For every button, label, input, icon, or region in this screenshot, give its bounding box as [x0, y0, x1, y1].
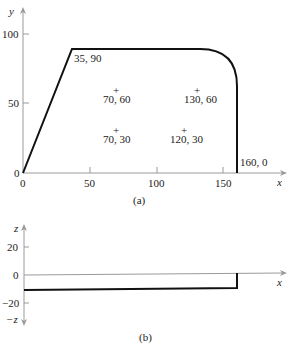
- corner-label-160-0: 160, 0: [240, 156, 268, 168]
- x-tick-label-150: 150: [215, 177, 232, 189]
- y-tick-label-100: 100: [2, 28, 19, 40]
- point-label: 120, 30: [170, 133, 204, 145]
- y-tick-label-50: 50: [8, 97, 20, 109]
- x-tick-label-0: 0: [20, 177, 26, 189]
- z-axis-label: z: [13, 222, 19, 234]
- x-tick-label-50: 50: [84, 177, 96, 189]
- plan-outline: [23, 49, 237, 173]
- x-axis-label: x: [276, 176, 282, 188]
- y-axis-label: y: [8, 5, 14, 17]
- panel-b: z −z x 20 0 −20 (b): [2, 222, 284, 344]
- point-label: 70, 60: [103, 93, 131, 105]
- caption-b: (b): [139, 331, 152, 344]
- z-tick-label-0: 0: [13, 269, 19, 281]
- point-130-60: + 130, 60: [184, 84, 218, 105]
- neg-z-axis-label: −z: [6, 313, 18, 325]
- point-120-30: + 120, 30: [170, 124, 204, 145]
- point-label: 130, 60: [184, 93, 218, 105]
- x-tick-label-100: 100: [148, 177, 165, 189]
- corner-label-35-90: 35, 90: [74, 52, 102, 64]
- x-axis-b: [24, 273, 284, 275]
- z-tick-label-20: 20: [7, 241, 19, 253]
- z-tick-label-neg20: −20: [2, 297, 20, 309]
- point-70-60: + 70, 60: [103, 84, 131, 105]
- x-axis-label-b: x: [276, 276, 282, 288]
- caption-a: (a): [133, 194, 146, 207]
- profile-outline: [24, 273, 237, 290]
- panel-a: y x 100 50 0 0 50 100 150 35, 90 160, 0 …: [2, 5, 284, 207]
- figure: y x 100 50 0 0 50 100 150 35, 90 160, 0 …: [0, 0, 289, 353]
- point-label: 70, 30: [103, 133, 131, 145]
- point-70-30: + 70, 30: [103, 124, 131, 145]
